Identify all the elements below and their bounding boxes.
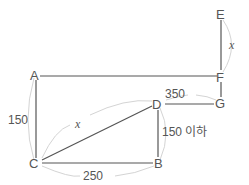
point-label-f: F (216, 70, 224, 85)
arc-cb-right (115, 166, 154, 176)
point-label-a: A (30, 68, 39, 83)
measurement-dg: 350 (165, 87, 185, 101)
point-label-g: G (215, 96, 225, 111)
point-label-e: E (216, 7, 225, 22)
diagram-canvas: A C B D E F G 150 250 150 이하 x 350 x (0, 0, 249, 185)
measurement-cb: 250 (83, 169, 103, 183)
measurement-cd: x (74, 117, 81, 131)
point-label-d: D (152, 97, 161, 112)
measurement-ac: 150 (8, 113, 28, 127)
point-label-c: C (29, 156, 38, 171)
measurement-db: 150 이하 (162, 125, 207, 139)
arc-cd-right (90, 101, 152, 115)
geometry-diagram: A C B D E F G 150 250 150 이하 x 350 x (0, 0, 249, 185)
point-label-b: B (154, 156, 163, 171)
arc-cb-left (42, 166, 80, 176)
arc-ac (28, 78, 34, 160)
measurement-ef: x (228, 38, 235, 52)
arc-dg-right (196, 95, 216, 100)
